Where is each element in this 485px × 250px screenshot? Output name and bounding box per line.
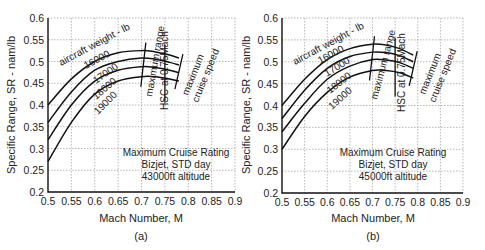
y-tick-label: 0.6 xyxy=(263,12,278,24)
y-axis-label: Specific Range, SR - nam/lb xyxy=(240,36,252,174)
x-tick-label: 0.55 xyxy=(294,196,315,208)
info-rating: Maximum Cruise Rating xyxy=(123,147,230,158)
chart-canvas: 0.50.550.60.650.70.750.80.850.90.20.250.… xyxy=(0,0,485,250)
info-altitude: 45000ft altitude xyxy=(359,171,428,182)
x-axis-label: Mach Number, M xyxy=(331,212,415,224)
x-tick-label: 0.75 xyxy=(155,195,176,207)
x-tick-label: 0.6 xyxy=(87,195,102,207)
x-tick-label: 0.9 xyxy=(456,196,471,208)
y-tick-label: 0.2 xyxy=(29,186,44,198)
x-tick-label: 0.7 xyxy=(134,195,149,207)
y-tick-label: 0.25 xyxy=(258,165,279,177)
chart-panel-a: 0.50.550.60.650.70.750.80.850.90.20.250.… xyxy=(5,12,242,242)
x-axis-label: Mach Number, M xyxy=(99,212,183,224)
y-tick-label: 0.35 xyxy=(24,121,45,133)
x-tick-label: 0.65 xyxy=(108,195,129,207)
y-tick-label: 0.45 xyxy=(258,78,279,90)
x-tick-label: 0.55 xyxy=(61,195,82,207)
x-tick-label: 0.85 xyxy=(201,195,222,207)
panel-label: (a) xyxy=(134,230,147,242)
y-tick-label: 0.5 xyxy=(29,56,44,68)
y-axis-label: Specific Range, SR - nam/lb xyxy=(5,36,17,174)
y-tick-label: 0.45 xyxy=(24,77,45,89)
hsc-label: HSC at 0.75Mach xyxy=(159,31,170,110)
y-tick-label: 0.55 xyxy=(24,34,45,46)
x-tick-label: 0.8 xyxy=(181,195,196,207)
y-tick-label: 0.3 xyxy=(263,143,278,155)
y-tick-label: 0.2 xyxy=(263,187,278,199)
info-altitude: 43000ft altitude xyxy=(142,171,211,182)
info-aircraft: Bizjet, STD day xyxy=(142,159,211,170)
panel-label: (b) xyxy=(366,230,379,242)
y-tick-label: 0.4 xyxy=(29,99,44,111)
max-cruise-speed-line xyxy=(409,51,417,86)
hsc-label: HSC at 0.75Mach xyxy=(396,33,407,112)
y-tick-label: 0.6 xyxy=(29,12,44,24)
y-tick-label: 0.4 xyxy=(263,100,278,112)
y-tick-label: 0.3 xyxy=(29,143,44,155)
y-tick-label: 0.25 xyxy=(24,164,45,176)
y-tick-label: 0.55 xyxy=(258,34,279,46)
x-tick-label: 0.8 xyxy=(410,196,425,208)
info-aircraft: Bizjet, STD day xyxy=(359,159,428,170)
x-tick-label: 0.85 xyxy=(430,196,451,208)
x-tick-label: 0.6 xyxy=(320,196,335,208)
x-tick-label: 0.9 xyxy=(228,195,243,207)
x-tick-label: 0.75 xyxy=(385,196,406,208)
x-tick-label: 0.7 xyxy=(365,196,380,208)
info-rating: Maximum Cruise Rating xyxy=(340,147,447,158)
x-tick-label: 0.65 xyxy=(340,196,361,208)
figure: 0.50.550.60.650.70.750.80.850.90.20.250.… xyxy=(0,0,485,250)
chart-panel-b: 0.50.550.60.650.70.750.80.850.90.20.250.… xyxy=(240,12,470,242)
y-tick-label: 0.5 xyxy=(263,56,278,68)
y-tick-label: 0.35 xyxy=(258,121,279,133)
